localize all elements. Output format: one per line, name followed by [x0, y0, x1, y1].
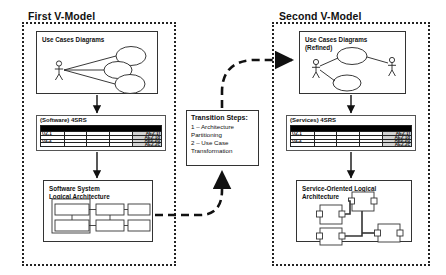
diagram-canvas: First V-Model Use Cases Diagrams (Softwa…: [0, 0, 446, 275]
use-case-ellipses-second: [320, 48, 388, 92]
dashed-flow-transition-to-usecase: [222, 60, 292, 108]
dashed-flow-arch-to-transition: [155, 172, 222, 215]
use-case-actor-first: [55, 61, 63, 80]
software-architecture-components: [52, 199, 150, 233]
use-case-actor-second-right: [388, 57, 396, 76]
service-oriented-components: [317, 192, 404, 245]
table-caption-services: (Services) 4SRS: [290, 117, 336, 123]
use-case-ellipses-first: [64, 47, 146, 94]
diagram-vector-layer: [0, 0, 446, 275]
use-case-actor-second-left: [312, 59, 320, 78]
table-caption-software: (Software) 4SRS: [40, 117, 87, 123]
